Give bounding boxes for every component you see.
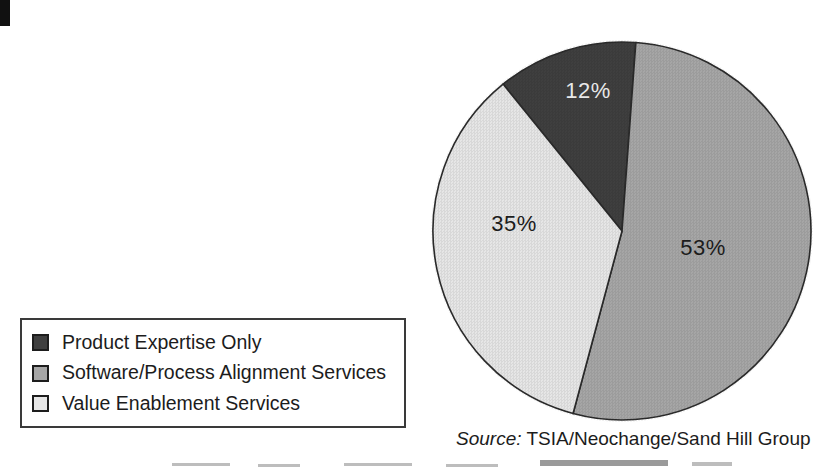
source-prefix: Source: [456, 428, 521, 449]
source-note: Source: TSIA/Neochange/Sand Hill Group [456, 428, 811, 450]
legend-item: Product Expertise Only [32, 327, 394, 358]
legend-item: Software/Process Alignment Services [32, 358, 394, 389]
legend-swatch-software-process-alignment-services [32, 365, 49, 382]
figure-canvas: 12%53%35% Product Expertise Only Softwar… [0, 0, 827, 469]
legend-label: Software/Process Alignment Services [62, 363, 386, 383]
legend-item: Value Enablement Services [32, 388, 394, 419]
source-text: TSIA/Neochange/Sand Hill Group [521, 428, 810, 449]
legend: Product Expertise Only Software/Process … [20, 318, 406, 428]
scan-artifact-mark [0, 0, 10, 26]
legend-swatch-product-expertise-only [32, 334, 49, 351]
legend-label: Product Expertise Only [62, 333, 261, 353]
pie-chart [431, 40, 813, 422]
legend-swatch-value-enablement-services [32, 395, 49, 412]
legend-label: Value Enablement Services [62, 394, 300, 414]
pie-svg [431, 40, 813, 422]
